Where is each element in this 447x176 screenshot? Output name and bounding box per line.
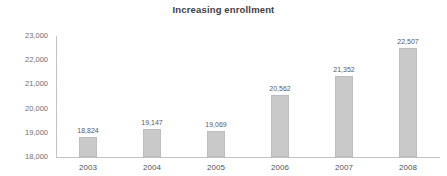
x-axis-tick-label: 2004 [128,162,176,174]
y-axis-tick-labels: 18,00019,00020,00021,00022,00023,000 [0,30,52,162]
x-axis-tick-label: 2008 [384,162,432,174]
bar-value-label: 22,507 [384,37,432,46]
plot-area: 18,82419,14719,06920,56221,35222,507 [56,36,440,157]
bar [207,131,225,157]
y-axis-tick-label: 18,000 [0,152,48,162]
bar [79,137,97,157]
y-axis-tick-label: 22,000 [0,55,48,65]
bar-value-label: 18,824 [64,126,112,135]
bar [335,76,353,157]
x-axis-tick-label: 2006 [256,162,304,174]
bar-value-label: 19,147 [128,118,176,127]
x-axis-tick-label: 2003 [64,162,112,174]
bar [399,48,417,157]
x-axis-line [56,157,440,158]
x-axis-tick-label: 2005 [192,162,240,174]
y-axis-tick-label: 19,000 [0,128,48,138]
bar-value-label: 21,352 [320,65,368,74]
bar [271,95,289,157]
bar [143,129,161,157]
chart-title: Increasing enrollment [0,4,447,15]
x-axis-tick-label: 2007 [320,162,368,174]
x-axis-tick-labels: 200320042005200620072008 [56,162,440,176]
y-axis-tick-label: 23,000 [0,31,48,41]
y-axis-tick-label: 21,000 [0,79,48,89]
bar-value-label: 19,069 [192,120,240,129]
bar-chart: Increasing enrollment 18,00019,00020,000… [0,0,447,176]
y-axis-tick-label: 20,000 [0,104,48,114]
bar-value-label: 20,562 [256,84,304,93]
